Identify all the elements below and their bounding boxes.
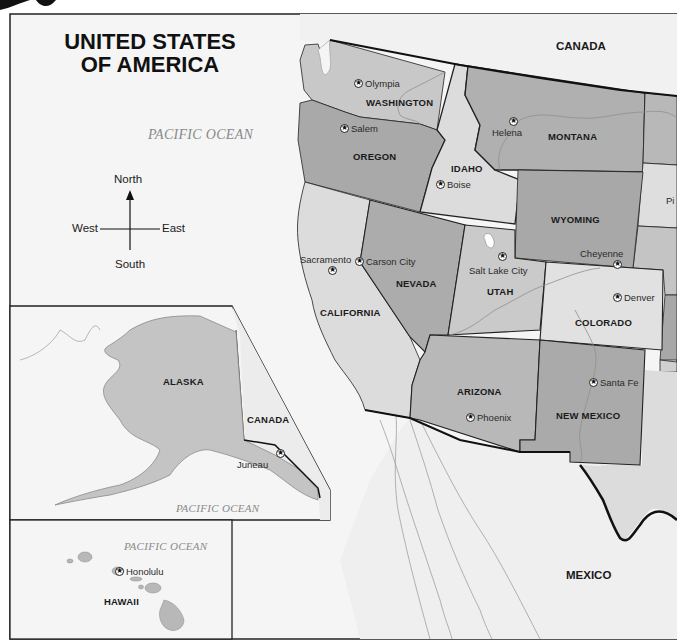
state-label-arizona: ARIZONA	[457, 386, 502, 397]
state-label-montana: MONTANA	[548, 131, 597, 142]
compass-south-label: South	[115, 258, 145, 270]
state-label-oregon: OREGON	[353, 151, 396, 162]
capital-star-icon	[613, 293, 622, 302]
state-label-nevada: NEVADA	[396, 278, 437, 289]
capital-label-juneau: Juneau	[237, 459, 268, 470]
ocean-label-alaska: PACIFIC OCEAN	[176, 502, 259, 514]
capital-label-denver: Denver	[624, 292, 655, 303]
capital-label-salem: Salem	[351, 123, 378, 134]
capital-star-icon	[613, 260, 622, 269]
capital-label-olympia: Olympia	[365, 78, 400, 89]
capital-santa-fe: Santa Fe	[589, 377, 639, 388]
partial-city-label-pierre: Pi	[666, 195, 674, 206]
state-new-mexico	[520, 340, 645, 465]
capital-label-honolulu: Honolulu	[126, 566, 164, 577]
state-label-idaho: IDAHO	[451, 163, 483, 174]
state-label-alaska: ALASKA	[163, 376, 204, 387]
corner-brush-decoration	[0, 0, 56, 10]
capital-helena: Helena	[492, 127, 522, 138]
hawaii-inset-frame	[10, 520, 232, 639]
island-maui	[145, 583, 161, 593]
state-north-dakota-partial	[643, 93, 677, 165]
capital-juneau: Juneau	[237, 459, 268, 470]
state-oklahoma-partial	[660, 360, 677, 372]
capital-cheyenne: Cheyenne	[580, 248, 623, 259]
capital-honolulu: Honolulu	[115, 566, 164, 577]
island-niihau	[67, 559, 73, 563]
state-label-colorado: COLORADO	[575, 317, 632, 328]
map-title: UNITED STATES OF AMERICA	[60, 30, 240, 76]
capital-star-icon	[115, 567, 124, 576]
island-lanai	[139, 585, 144, 589]
capital-olympia: Olympia	[354, 78, 400, 89]
capital-star-icon	[498, 252, 507, 261]
country-label-mexico: MEXICO	[566, 569, 611, 581]
capital-salt-lake-city: Salt Lake City	[469, 265, 528, 276]
capital-salem: Salem	[340, 123, 378, 134]
ocean-label-main: PACIFIC OCEAN	[148, 127, 253, 143]
island-kauai	[78, 552, 92, 562]
state-label-wyoming: WYOMING	[551, 214, 600, 225]
capital-label-salt-lake-city: Salt Lake City	[469, 265, 528, 276]
capital-label-boise: Boise	[447, 179, 471, 190]
capital-label-helena: Helena	[492, 127, 522, 138]
capital-star-icon	[589, 378, 598, 387]
capital-carson-city: Carson City	[355, 256, 416, 267]
map-title-line1: UNITED STATES	[60, 30, 240, 53]
state-colorado	[540, 262, 663, 350]
map-stage: UNITED STATES OF AMERICA PACIFIC OCEAN P…	[0, 0, 677, 644]
state-label-utah: UTAH	[487, 286, 513, 297]
capital-star-icon	[436, 180, 445, 189]
capital-denver: Denver	[613, 292, 655, 303]
capital-label-phoenix: Phoenix	[477, 412, 511, 423]
capital-star-icon	[340, 124, 349, 133]
compass-west-label: West	[72, 222, 98, 234]
state-label-california: CALIFORNIA	[320, 307, 381, 318]
map-title-line2: OF AMERICA	[60, 53, 240, 76]
capital-star-icon	[276, 449, 285, 458]
capital-boise: Boise	[436, 179, 471, 190]
capital-label-carson-city: Carson City	[366, 256, 416, 267]
capital-sacramento: Sacramento	[300, 254, 351, 265]
island-molokai	[130, 577, 142, 581]
capital-star-icon	[509, 117, 518, 126]
capital-star-icon	[355, 257, 364, 266]
capital-label-santa-fe: Santa Fe	[600, 377, 639, 388]
country-label-canada: CANADA	[556, 40, 606, 52]
state-label-hawaii: HAWAII	[104, 596, 139, 607]
capital-star-icon	[354, 79, 363, 88]
state-label-washington: WASHINGTON	[366, 97, 433, 108]
capital-star-icon	[466, 413, 475, 422]
state-label-new-mexico: NEW MEXICO	[556, 410, 620, 421]
capital-phoenix: Phoenix	[466, 412, 511, 423]
ocean-label-hawaii: PACIFIC OCEAN	[124, 540, 207, 552]
compass-north-label: North	[114, 173, 142, 185]
country-label-canada-inset: CANADA	[247, 414, 289, 425]
compass-east-label: East	[162, 222, 185, 234]
capital-star-icon	[328, 266, 337, 275]
capital-label-sacramento: Sacramento	[300, 254, 351, 265]
